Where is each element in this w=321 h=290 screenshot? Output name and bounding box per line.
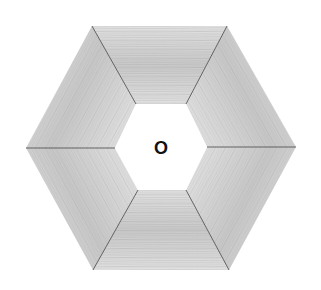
center-label: O: [154, 138, 168, 159]
